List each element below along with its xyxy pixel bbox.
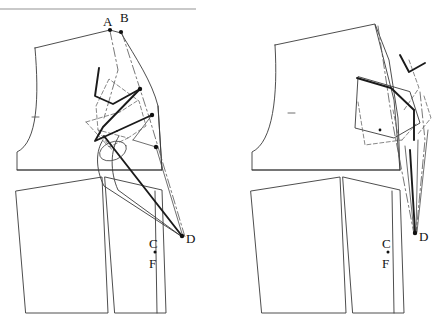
right-dot-inner <box>379 129 382 132</box>
label-B-left: B <box>120 10 129 25</box>
label-F-right: F <box>382 256 389 271</box>
label-D-left: D <box>186 231 195 246</box>
right-front-leg-panel <box>251 177 346 313</box>
diagram-canvas: .out { fill:none; stroke:#3a3a3a; stroke… <box>0 0 436 317</box>
left-bodice-shape <box>17 30 162 170</box>
right-figure: C F D <box>251 24 431 313</box>
label-D-right: D <box>419 229 428 244</box>
right-dashed-leg-5 <box>418 96 431 134</box>
left-figure: A B C F D <box>16 10 195 313</box>
right-back-leg-panel <box>343 177 404 313</box>
left-dot-2 <box>150 113 154 117</box>
label-F-left: F <box>149 256 156 271</box>
left-point-D-marker <box>180 234 184 238</box>
label-C-right: C <box>382 236 391 251</box>
top-horizontal-rule <box>0 8 196 10</box>
left-dot-3 <box>154 145 158 149</box>
label-C-left: C <box>149 236 158 251</box>
left-front-leg-panel <box>16 177 108 313</box>
right-bodice-shape <box>252 24 400 170</box>
left-bodice-outline <box>17 30 162 170</box>
label-A-left: A <box>103 14 113 29</box>
right-point-D-marker <box>413 231 417 235</box>
left-dot-1 <box>138 87 142 91</box>
left-point-B-marker <box>119 30 123 34</box>
pattern-diagram-svg: .out { fill:none; stroke:#3a3a3a; stroke… <box>0 0 436 317</box>
right-dart-edge-3 <box>417 130 428 232</box>
right-bold-dart-top <box>400 55 425 72</box>
